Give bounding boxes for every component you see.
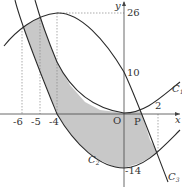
x-tick-minus4: -4 — [49, 117, 59, 127]
curve-c3-name: C — [168, 171, 176, 182]
origin-label: O — [113, 116, 121, 126]
curve-c2-sub: 2 — [96, 159, 100, 166]
y-tick-10: 10 — [127, 68, 140, 78]
shaded-region — [22, 15, 158, 168]
x-tick-minus6: -6 — [13, 117, 23, 127]
x-tick-minus5: -5 — [31, 117, 41, 127]
curve-c1-sub: 1 — [180, 88, 182, 95]
x-tick-2: 2 — [155, 101, 161, 111]
curve-c1-label: C1 — [172, 84, 182, 95]
graph-diagram: y 26 10 -14 -6 -5 -4 2 x O P C1 C2 C3 — [0, 0, 182, 187]
curve-c1-name: C — [172, 83, 180, 94]
curve-c2-name: C — [88, 154, 96, 165]
curve-c3-sub: 3 — [176, 176, 180, 183]
y-axis-arrow-icon — [122, 1, 126, 6]
y-axis-label: y — [115, 1, 121, 11]
y-tick-minus14: -14 — [125, 166, 141, 176]
point-p-label: P — [134, 117, 141, 127]
y-tick-26: 26 — [127, 8, 140, 18]
x-axis-label: x — [175, 115, 181, 125]
curve-c2-label: C2 — [88, 155, 99, 166]
curve-c3-label: C3 — [168, 172, 179, 183]
